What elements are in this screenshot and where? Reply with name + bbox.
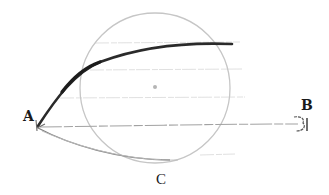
- label-point-b: B: [301, 98, 313, 112]
- pencil-sketch-diagram: [0, 0, 329, 195]
- guide-line-bottom-right: [200, 154, 235, 155]
- line-a-to-b: [40, 124, 298, 127]
- guide-line-lower: [60, 97, 245, 98]
- circle-center-dot: [153, 85, 157, 89]
- guide-line-middle: [90, 69, 243, 70]
- lower-curve-a-to-c-second: [42, 131, 178, 160]
- lower-curve-a-to-c: [38, 128, 170, 160]
- guide-lines: [60, 42, 245, 155]
- label-point-c: C: [156, 172, 166, 187]
- label-point-a: A: [23, 109, 34, 123]
